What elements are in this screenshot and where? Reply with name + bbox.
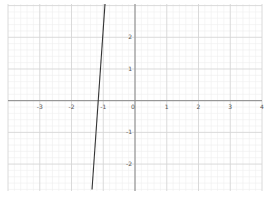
x-tick-label: 0 <box>131 103 135 110</box>
y-tick-label: -1 <box>126 128 132 135</box>
x-tick-label: 2 <box>197 103 201 110</box>
x-tick-label: 4 <box>260 103 264 110</box>
x-tick-label: -3 <box>37 103 43 110</box>
x-tick-label: -2 <box>69 103 75 110</box>
x-tick-label: -1 <box>100 103 106 110</box>
x-tick-label: 3 <box>228 103 232 110</box>
graph-canvas: -3-2-101234 21-1-2 <box>0 0 267 199</box>
y-tick-label: -2 <box>126 160 132 167</box>
x-tick-label: 1 <box>165 103 169 110</box>
y-tick-label: 1 <box>128 65 132 72</box>
x-axis-tick-labels: -3-2-101234 <box>37 103 264 110</box>
y-tick-label: 2 <box>128 33 132 40</box>
